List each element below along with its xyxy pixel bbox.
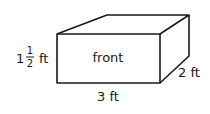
depth-label: 2 ft xyxy=(178,65,200,80)
length-label: 3 ft xyxy=(97,89,119,104)
prism-diagram: front 3 ft 2 ft 1 1 2 ft xyxy=(0,0,210,114)
height-whole: 1 xyxy=(16,51,24,66)
top-face-edges xyxy=(57,15,189,34)
height-label: 1 1 2 ft xyxy=(16,45,48,69)
height-numerator: 1 xyxy=(27,45,33,56)
height-unit: ft xyxy=(39,51,48,66)
front-face-label: front xyxy=(93,50,124,65)
height-denominator: 2 xyxy=(27,58,33,69)
